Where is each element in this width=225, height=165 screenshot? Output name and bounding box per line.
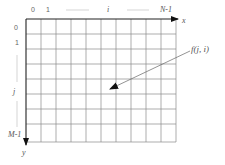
x-tick-i: i	[107, 5, 109, 14]
y-tick-0: 0	[14, 24, 18, 31]
y-tick-j: j	[12, 87, 16, 96]
pixel-pointer-arrow	[110, 51, 190, 89]
x-tick-n-minus-1: N-1	[159, 5, 172, 14]
pixel-grid	[26, 19, 176, 142]
image-grid-diagram: 0 1 i N-1 x 0 1 j M-1 y f(j, i)	[0, 0, 225, 165]
pixel-function-label: f(j, i)	[191, 44, 209, 54]
x-axis-label: x	[181, 16, 186, 25]
y-axis-label: y	[21, 148, 26, 157]
x-tick-1: 1	[46, 6, 50, 13]
x-tick-0: 0	[31, 6, 35, 13]
y-tick-1: 1	[15, 39, 19, 46]
y-tick-m-minus-1: M-1	[7, 130, 21, 139]
